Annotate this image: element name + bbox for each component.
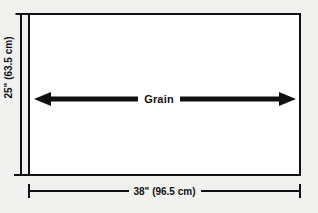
width-dimension-rule	[28, 190, 301, 192]
width-dimension-tick-right	[299, 184, 301, 198]
grain-direction-double-arrow	[34, 89, 296, 109]
height-dimension-label: 25" (63.5 cm)	[1, 0, 16, 142]
panel-grain-diagram: Grain 25" (63.5 cm) 38" (96.5 cm)	[0, 0, 318, 213]
height-dimension-line	[14, 13, 28, 176]
height-dimension-rule	[20, 13, 22, 176]
height-dimension-tick-bottom	[14, 174, 28, 176]
width-dimension-line: 38" (96.5 cm)	[28, 184, 301, 198]
